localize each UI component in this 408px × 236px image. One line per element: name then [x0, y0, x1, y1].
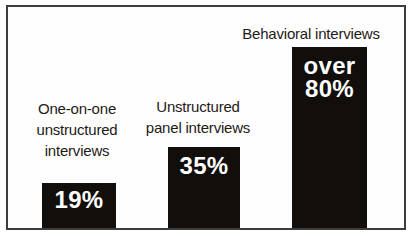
bar-value-label: over [292, 54, 367, 77]
bar-one-on-one: 19% [42, 183, 116, 228]
bar-behavioral: over 80% [292, 47, 367, 228]
category-label-line: unstructured [17, 119, 137, 140]
category-label-line: Behavioral interviews [240, 23, 382, 44]
bar-unstructured-panel: 35% [168, 147, 240, 228]
category-label-line: panel interviews [138, 117, 258, 138]
category-label-line: One-on-one [17, 98, 137, 119]
category-label-line: interviews [17, 140, 137, 161]
bar-value-label: 80% [292, 77, 367, 100]
category-label-behavioral: Behavioral interviews [240, 23, 382, 44]
bar-value-label: 35% [168, 154, 240, 177]
bar-chart-figure: One-on-one unstructured interviews Unstr… [0, 0, 408, 236]
category-label-line: Unstructured [138, 96, 258, 117]
category-label-unstructured-panel: Unstructured panel interviews [138, 96, 258, 138]
category-label-one-on-one: One-on-one unstructured interviews [17, 98, 137, 161]
bar-value-label: 19% [42, 188, 116, 211]
